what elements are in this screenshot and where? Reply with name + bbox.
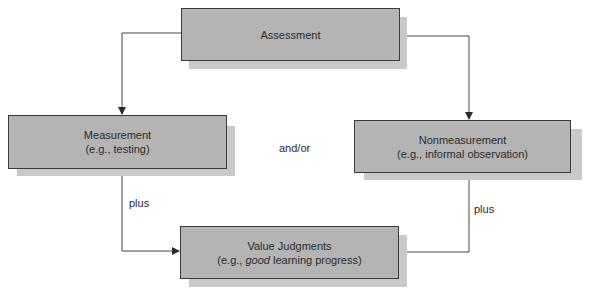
nonmeasurement-example: (e.g., informal observation) [397,147,528,161]
edge-assessment-nonmeasurement [399,36,469,119]
valuejudgments-title: Value Judgments [247,239,331,253]
valuejudgments-example-suffix: learning progress) [270,254,362,266]
edge-nonmeasurement-valuejudgments [400,172,469,252]
assessment-title: Assessment [261,28,321,42]
valuejudgments-node: Value Judgments (e.g., good learning pro… [180,226,399,279]
edge-measurement-valuejudgments [122,168,179,251]
plus-right-label: plus [474,203,494,215]
valuejudgments-example-prefix: (e.g., [217,254,245,266]
nonmeasurement-title: Nonmeasurement [419,133,506,147]
measurement-example: (e.g., testing) [85,142,149,156]
valuejudgments-example: (e.g., good learning progress) [217,253,361,267]
nonmeasurement-node: Nonmeasurement (e.g., informal observati… [354,120,571,173]
plus-left-label: plus [129,197,149,209]
valuejudgments-example-emphasis: good [245,254,269,266]
measurement-title: Measurement [84,128,151,142]
assessment-node: Assessment [181,8,400,61]
and-or-label: and/or [279,142,310,154]
edge-assessment-measurement [122,33,181,114]
measurement-node: Measurement (e.g., testing) [8,115,227,169]
